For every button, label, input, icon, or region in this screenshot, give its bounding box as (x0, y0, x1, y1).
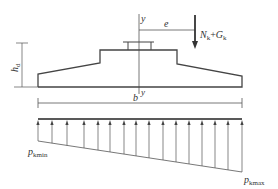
foundation-outline (38, 50, 242, 87)
arrow-head-icon (108, 120, 111, 125)
pressure-arrows (36, 120, 243, 172)
load-label: Nk+Gk (199, 29, 227, 42)
height-label: hd (9, 63, 22, 72)
width-label: b (133, 92, 138, 103)
arrow-head-icon (122, 120, 125, 125)
arrow-head-icon (213, 120, 216, 125)
arrow-head-icon (187, 120, 190, 125)
arrow-head-icon (96, 120, 99, 125)
arrow-head-icon (161, 120, 164, 125)
axis-label-bottom: y (140, 87, 145, 97)
arrow-head-icon (174, 120, 177, 125)
foundation-diagram: y y e Nk+Gk hd b pkmin pkmax (0, 0, 278, 189)
pmax-label: pkmax (243, 174, 265, 187)
arrow-head-icon (82, 120, 85, 125)
eccentricity-label: e (164, 18, 169, 29)
arrow-head-icon (134, 120, 137, 125)
arrow-head-icon (65, 120, 68, 125)
arrow-head-icon (36, 120, 39, 125)
arrow-head-icon (147, 120, 150, 125)
arrow-head-icon (50, 120, 53, 125)
load-arrow-head-icon (192, 41, 198, 49)
axis-label-top: y (140, 13, 146, 24)
arrow-head-icon (240, 120, 243, 125)
arrow-head-icon (226, 120, 229, 125)
pmin-label: pkmin (27, 146, 48, 159)
arrow-head-icon (200, 120, 203, 125)
pressure-envelope (38, 141, 242, 172)
